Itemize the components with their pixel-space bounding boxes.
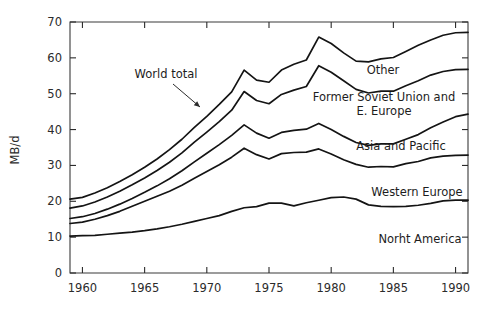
y-tick-label: 60 bbox=[47, 51, 62, 65]
y-tick-label: 70 bbox=[47, 15, 62, 29]
x-tick-label: 1980 bbox=[317, 281, 346, 295]
chart-figure: 010203040506070 196019651970197519801985… bbox=[0, 0, 487, 309]
line-chart: 010203040506070 196019651970197519801985… bbox=[0, 0, 487, 309]
x-tick-label: 1965 bbox=[130, 281, 159, 295]
series-line-norht-america bbox=[70, 197, 468, 236]
x-tick-label: 1975 bbox=[254, 281, 283, 295]
series-annotations: Norht AmericaWestern EuropeAsia and Paci… bbox=[135, 63, 463, 246]
x-tick-label: 1985 bbox=[379, 281, 408, 295]
y-axis-title: MB/d bbox=[8, 136, 22, 165]
x-tick-label: 1990 bbox=[441, 281, 470, 295]
y-tick-label: 0 bbox=[55, 266, 62, 280]
series-label-other: Other bbox=[367, 63, 400, 77]
y-tick-label: 20 bbox=[47, 194, 62, 208]
y-tick-label: 10 bbox=[47, 230, 62, 244]
series-label-norht-america: Norht America bbox=[378, 232, 461, 246]
y-tick-label: 40 bbox=[47, 123, 62, 137]
annotation-world-total: World total bbox=[135, 67, 198, 81]
x-tick-label: 1960 bbox=[68, 281, 97, 295]
series-lines bbox=[70, 32, 468, 236]
series-label-western-europe: Western Europe bbox=[371, 185, 462, 199]
series-label-former-soviet-union-and-e-europe: Former Soviet Union andE. Europe bbox=[313, 90, 456, 118]
x-tick-label: 1970 bbox=[192, 281, 221, 295]
series-label-asia-and-pacific: Asia and Pacific bbox=[356, 139, 446, 153]
y-tick-label: 30 bbox=[47, 158, 62, 172]
y-tick-label: 50 bbox=[47, 87, 62, 101]
